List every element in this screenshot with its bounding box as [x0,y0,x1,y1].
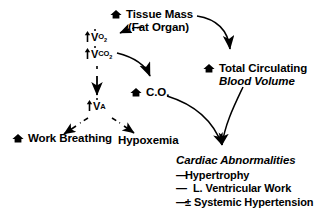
node-blood-volume: Total Circulating Blood Volume [203,62,307,88]
cardiac-abnormalities-heading: Cardiac Abnormalities [176,154,313,167]
tissue-mass-row: Tissue Mass [110,8,193,21]
tissue-mass-label: Tissue Mass [126,8,193,21]
up-arrow-icon [130,88,142,97]
node-vco2: V CO2 [84,48,112,61]
list-item-label: ± Systemic Hypertension [185,196,313,208]
vo2-label: V O2 [84,31,107,43]
vco2-label: V CO2 [84,48,112,60]
increase-tick-icon [84,48,91,59]
list-item: —Hypertrophy [176,169,313,181]
node-vo2: V O2 [84,31,107,44]
blood-volume-label: Total Circulating [219,62,307,75]
va-subscript: A [100,103,105,112]
edge-va-to-hypoxemia [112,118,134,133]
work-breathing-row: Work Breathing [12,132,112,145]
vco2-subscript-text: CO [98,49,109,58]
edge-vco2-to-cardiac-output [117,53,150,76]
edge-tissue-mass-to-blood-volume [197,16,230,49]
increase-tick-icon [86,100,93,111]
node-tissue-mass: Tissue Mass (Fat Organ) [110,8,193,34]
list-item: —± Systemic Hypertension [176,196,313,208]
blood-volume-sublabel: Blood Volume [203,75,307,88]
increase-tick-icon [84,31,91,42]
list-marker: — [176,196,185,208]
node-va: V A [86,100,106,113]
cardiac-abnormalities-list: —Hypertrophy —L. Ventricular Work —± Sys… [176,169,313,208]
hypoxemia-label: Hypoxemia [118,134,178,146]
blood-volume-row: Total Circulating [203,62,307,75]
vco2-subscript-number: 2 [109,54,112,60]
node-hypoxemia: Hypoxemia [118,134,178,147]
up-arrow-icon [110,10,122,19]
tissue-mass-sublabel: (Fat Organ) [110,21,193,34]
node-cardiac-abnormalities: Cardiac Abnormalities —Hypertrophy —L. V… [176,154,313,208]
node-work-breathing: Work Breathing [12,132,112,145]
diagram-canvas: Tissue Mass (Fat Organ) V O2 V [0,0,318,216]
list-item-label: L. Ventricular Work [193,182,291,194]
cardiac-output-row: C.O. [130,86,169,99]
v-dot-symbol: V [93,100,100,112]
edge-blood-volume-to-cardiac-abnormalities [222,87,243,145]
work-breathing-label: Work Breathing [28,132,112,145]
vo2-subscript-number: 2 [104,37,107,43]
v-dot-symbol: V [91,31,98,43]
vco2-subscript: CO2 [98,50,112,60]
list-item-label: Hypertrophy [185,169,249,181]
cardiac-output-label: C.O. [146,86,169,99]
vo2-subscript: O2 [98,33,107,43]
va-label: V A [86,100,106,112]
list-item: —L. Ventricular Work [176,182,313,194]
up-arrow-icon [12,134,24,143]
node-cardiac-output: C.O. [130,86,169,99]
v-dot-symbol: V [91,48,98,60]
up-arrow-icon [203,64,215,73]
list-marker: — [176,182,185,194]
list-marker: — [176,169,185,181]
